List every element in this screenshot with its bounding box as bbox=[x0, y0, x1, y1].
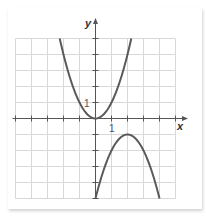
x-axis-label: x bbox=[176, 120, 184, 132]
x-tick-label: 1 bbox=[109, 123, 115, 134]
y-tick-label: 1 bbox=[84, 98, 90, 109]
graph: x y 1 1 bbox=[0, 0, 206, 216]
axes bbox=[13, 18, 189, 199]
y-axis-label: y bbox=[84, 17, 92, 29]
